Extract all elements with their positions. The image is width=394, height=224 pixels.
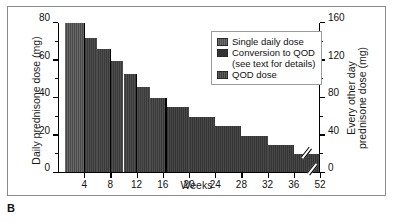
y-axis-right-tick <box>320 22 325 23</box>
x-axis-tick <box>320 173 321 178</box>
x-axis-tick-label: 20 <box>183 180 194 190</box>
chart-frame: Daily prednisone dose (mg) Every other d… <box>7 6 386 196</box>
legend-item: (see text for details) <box>217 58 315 69</box>
y-axis-left-tick-label: 40 <box>39 88 50 98</box>
y-axis-left-title: Daily prednisone dose (mg) <box>31 21 42 181</box>
x-axis-tick-label: 8 <box>108 180 114 190</box>
legend-item: Conversion to QOD <box>217 47 315 58</box>
bar <box>189 117 215 173</box>
y-axis-right-minor-tick <box>320 116 323 117</box>
y-axis-right-minor-tick <box>320 153 323 154</box>
x-axis-tick <box>215 173 216 178</box>
figure-panel-b: Daily prednisone dose (mg) Every other d… <box>0 0 394 224</box>
x-axis-tick-label: 28 <box>236 180 247 190</box>
y-axis-right-tick <box>320 97 325 98</box>
legend-item-label: QOD dose <box>232 69 277 80</box>
bar <box>241 136 267 174</box>
legend-item-label: Single daily dose <box>232 36 304 47</box>
y-axis-left-tick-label: 0 <box>44 163 50 173</box>
y-axis-left-minor-tick <box>55 153 58 154</box>
legend-swatch-icon <box>217 38 228 46</box>
bar <box>166 107 189 173</box>
y-axis-left-minor-tick <box>55 78 58 79</box>
x-axis-tick-label: 16 <box>157 180 168 190</box>
y-axis-right-tick <box>320 134 325 135</box>
phase-divider <box>84 23 85 173</box>
x-axis-tick-label: 32 <box>262 180 273 190</box>
x-axis-tick <box>137 173 138 178</box>
bar <box>65 23 85 173</box>
chart-legend: Single daily doseConversion to QOD(see t… <box>211 31 322 85</box>
legend-swatch-icon <box>217 71 228 79</box>
phase-divider <box>165 98 166 173</box>
x-axis-tick <box>294 173 295 178</box>
y-axis-left-tick <box>53 59 58 60</box>
legend-item: Single daily dose <box>217 36 315 47</box>
y-axis-left-tick-label: 20 <box>39 126 50 136</box>
bar <box>150 98 166 173</box>
phase-divider <box>136 74 137 173</box>
x-axis-tick <box>84 173 85 178</box>
x-axis-tick <box>163 173 164 178</box>
legend-swatch-icon <box>217 49 228 57</box>
x-axis-tick <box>241 173 242 178</box>
y-axis-left-tick-label: 60 <box>39 51 50 61</box>
x-axis-title: Weeks <box>8 180 385 191</box>
y-axis-left-minor-tick <box>55 41 58 42</box>
y-axis-right-tick-label: 120 <box>328 51 345 61</box>
bar <box>124 74 137 173</box>
x-axis-tick-label: 12 <box>131 180 142 190</box>
bar <box>268 145 294 173</box>
bar <box>84 38 97 173</box>
y-axis-left-tick <box>53 97 58 98</box>
y-axis-right-tick-label: 160 <box>328 13 345 23</box>
x-axis-tick <box>110 173 111 178</box>
bar <box>110 61 123 174</box>
x-axis-tick-label: 52 <box>314 180 325 190</box>
y-axis-right-tick-label: 40 <box>328 126 339 136</box>
y-axis-right-title: Every other day prednisone dose (mg) <box>346 18 368 178</box>
y-axis-right-tick-label: 0 <box>328 163 334 173</box>
bar <box>97 49 110 173</box>
legend-item-label: (see text for details) <box>232 58 315 69</box>
legend-item-label: Conversion to QOD <box>232 47 315 58</box>
phase-divider <box>110 49 111 173</box>
y-axis-right-title-line2: prednisone dose (mg) <box>357 18 368 178</box>
x-axis-tick <box>189 173 190 178</box>
x-axis-tick <box>268 173 269 178</box>
y-axis-left-line <box>58 23 59 173</box>
y-axis-left-tick-label: 80 <box>39 13 50 23</box>
bar <box>137 87 150 173</box>
y-axis-left-tick <box>53 22 58 23</box>
x-axis-tick-label: 4 <box>81 180 87 190</box>
x-axis-tick-label: 24 <box>210 180 221 190</box>
x-axis-tick-label: 36 <box>288 180 299 190</box>
y-axis-right-tick-label: 80 <box>328 88 339 98</box>
panel-letter: B <box>7 202 15 214</box>
y-axis-left-tick <box>53 172 58 173</box>
legend-item: QOD dose <box>217 69 315 80</box>
y-axis-left-minor-tick <box>55 116 58 117</box>
y-axis-left-tick <box>53 134 58 135</box>
bar <box>215 126 241 173</box>
